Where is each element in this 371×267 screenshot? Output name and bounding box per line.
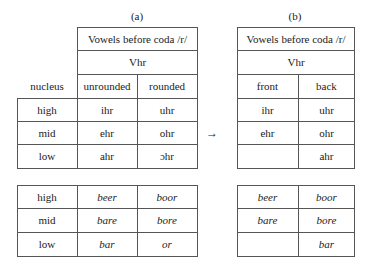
example-word: bore xyxy=(137,208,197,232)
example-word: bare xyxy=(77,208,137,232)
table-cell: uhr xyxy=(137,98,197,121)
table-cell: ohr xyxy=(137,121,197,144)
example-word: bar xyxy=(77,232,137,256)
table-cell: ihr xyxy=(77,98,137,121)
example-word: bore xyxy=(298,208,355,232)
table-cell: ehr xyxy=(77,121,137,144)
arrow-right-icon: → xyxy=(204,124,220,142)
table-cell: ihr xyxy=(237,98,298,121)
example-word: boor xyxy=(298,185,355,208)
row-header-nucleus: nucleus xyxy=(17,74,77,98)
example-word xyxy=(237,232,298,256)
table-cell xyxy=(237,144,298,168)
column-header-unrounded: unrounded xyxy=(77,74,137,98)
example-word: beer xyxy=(77,185,137,208)
column-header-front: front xyxy=(237,74,298,98)
table-cell: uhr xyxy=(298,98,355,121)
row-label-mid: mid xyxy=(17,121,77,144)
table-cell: ɔhr xyxy=(137,144,197,168)
row-label-high: high xyxy=(17,185,77,208)
subheader-vhr: Vhr xyxy=(237,50,355,74)
example-word: boor xyxy=(137,185,197,208)
row-label-low: low xyxy=(17,232,77,256)
example-word: beer xyxy=(237,185,298,208)
panel-a-label: (a) xyxy=(117,8,157,24)
column-header-back: back xyxy=(298,74,355,98)
row-label-mid: mid xyxy=(17,208,77,232)
header-vowels-before-coda: Vowels before coda /r/ xyxy=(237,27,355,50)
panel-b-label: (b) xyxy=(275,8,315,24)
table-cell: ohr xyxy=(298,121,355,144)
row-label-low: low xyxy=(17,144,77,168)
column-header-rounded: rounded xyxy=(137,74,197,98)
table-cell: ahr xyxy=(298,144,355,168)
row-label-high: high xyxy=(17,98,77,121)
example-word: bar xyxy=(298,232,355,256)
table-cell: ahr xyxy=(77,144,137,168)
example-word: or xyxy=(137,232,197,256)
table-cell: ehr xyxy=(237,121,298,144)
example-word: bare xyxy=(237,208,298,232)
subheader-vhr: Vhr xyxy=(77,50,198,74)
header-vowels-before-coda: Vowels before coda /r/ xyxy=(77,27,198,50)
